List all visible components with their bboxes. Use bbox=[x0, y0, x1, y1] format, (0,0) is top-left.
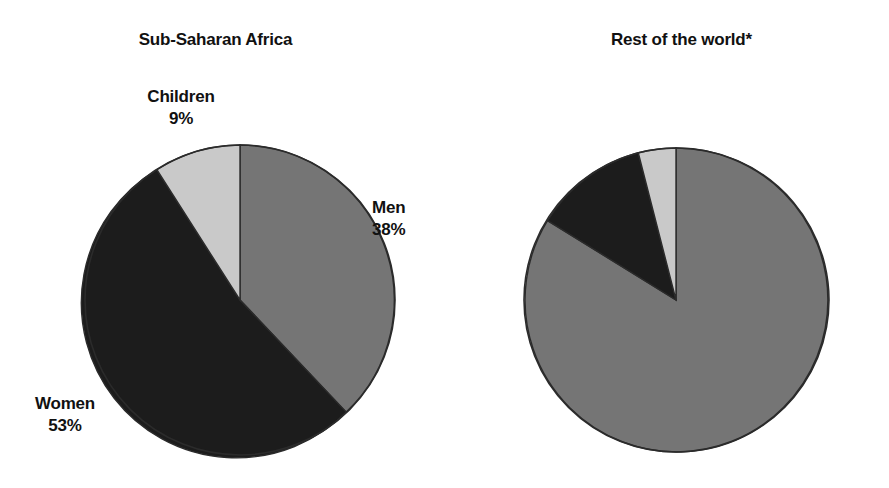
pie-label-women-left: Women 53% bbox=[6, 393, 124, 437]
chart-panel-sub-saharan-africa: Sub-Saharan Africa Children 9% Men 38% W… bbox=[0, 0, 455, 488]
pie-chart-right bbox=[434, 0, 889, 488]
pie-label-women-right: Women 30% bbox=[868, 255, 889, 299]
pie-label-women-left-name: Women bbox=[6, 393, 124, 415]
chart-panel-rest-of-the-world: Rest of the world* Children 3% Women 30%… bbox=[434, 0, 889, 488]
pie-label-women-right-name: Women bbox=[868, 255, 889, 277]
pie-label-children-left-name: Children bbox=[120, 86, 242, 108]
pie-label-women-right-value: 30% bbox=[868, 277, 889, 299]
pie-label-children-left-value: 9% bbox=[120, 108, 242, 130]
pie-label-children-left: Children 9% bbox=[120, 86, 242, 130]
pie-label-women-left-value: 53% bbox=[6, 415, 124, 437]
pie-chart-figure: Sub-Saharan Africa Children 9% Men 38% W… bbox=[0, 0, 889, 488]
